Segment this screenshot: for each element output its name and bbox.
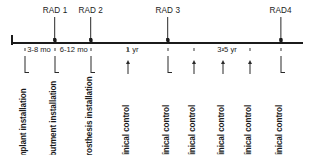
- radiograph-stem: [55, 17, 56, 39]
- event-stem: [55, 56, 56, 73]
- radiograph-stem: [90, 17, 91, 39]
- axis-dash: [167, 48, 168, 51]
- axis-tick: [89, 39, 92, 44]
- radiograph-label: RAD 1: [43, 6, 68, 15]
- event-label: clinical control: [188, 105, 197, 155]
- axis-dash: [280, 48, 281, 51]
- axis-dash: [90, 48, 91, 51]
- radiograph-marker: RAD 2: [78, 6, 103, 15]
- event-label: abutment installation: [49, 81, 58, 155]
- radiograph-stem: [280, 17, 281, 39]
- axis-dash: [25, 48, 26, 51]
- radiograph-label: RAD 2: [78, 6, 103, 15]
- event-stem: [167, 56, 168, 73]
- event-label: clinical control: [244, 105, 253, 155]
- interval-label: 3-5 yr: [217, 45, 236, 54]
- event-stem: [25, 56, 26, 73]
- timeline-axis-start-cap: [11, 35, 13, 45]
- timeline-figure: RAD 1RAD 2RAD 3RAD4 3-8 mo6-12 mo1 yr3-5…: [0, 0, 311, 155]
- event-label: implant installation: [19, 88, 28, 155]
- radiograph-stem: [167, 17, 168, 39]
- event-label: clinical control: [122, 105, 131, 155]
- interval-label: 6-12 mo: [60, 45, 88, 54]
- event-stem: [280, 56, 281, 73]
- radiograph-label: RAD 3: [155, 6, 180, 15]
- axis-tick: [166, 39, 169, 44]
- axis-tick: [54, 39, 57, 44]
- event-hook: [25, 72, 29, 73]
- event-label: clinical control: [162, 105, 171, 155]
- radiograph-marker: RAD 1: [43, 6, 68, 15]
- event-hook: [55, 72, 59, 73]
- event-label: clinical control: [217, 105, 226, 155]
- event-stem: [194, 64, 195, 74]
- axis-dash: [223, 48, 224, 51]
- event-stem: [250, 64, 251, 74]
- radiograph-marker: RAD 3: [155, 6, 180, 15]
- event-hook: [91, 72, 95, 73]
- event-hook: [168, 72, 172, 73]
- interval-label: 3-8 mo: [27, 45, 51, 54]
- radiograph-label: RAD4: [269, 6, 291, 15]
- radiograph-marker: RAD4: [269, 6, 291, 15]
- event-stem: [90, 56, 91, 73]
- axis-dash: [194, 48, 195, 51]
- event-hook: [281, 72, 285, 73]
- event-label: prosthesis installation: [85, 76, 94, 155]
- axis-tick: [279, 39, 282, 44]
- event-label: clinical control: [275, 105, 284, 155]
- axis-dash: [250, 48, 251, 51]
- axis-dash: [55, 48, 56, 51]
- event-stem: [127, 64, 128, 74]
- event-stem: [223, 64, 224, 74]
- axis-dash: [127, 48, 128, 51]
